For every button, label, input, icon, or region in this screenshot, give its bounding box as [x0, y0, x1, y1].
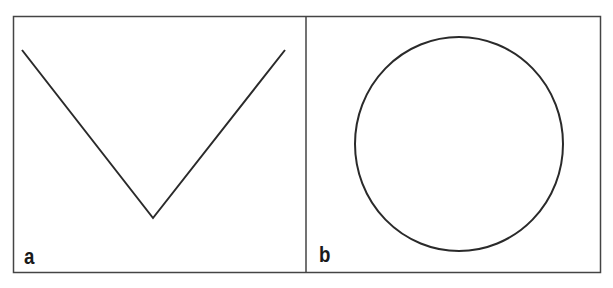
panel-b-circle: [355, 37, 563, 251]
panel-b-label: b: [319, 244, 330, 266]
figure-canvas: [0, 0, 613, 288]
panel-a-label: a: [24, 246, 34, 268]
panel-a-v-shape: [22, 50, 285, 218]
figure-frame: [14, 17, 601, 273]
